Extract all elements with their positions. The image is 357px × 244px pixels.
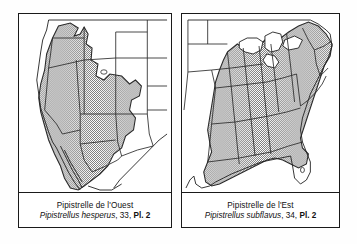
map-east xyxy=(182,14,339,192)
plate-label-west: Pl. 2 xyxy=(133,211,150,220)
map-area-west xyxy=(19,14,171,192)
common-name-east: Pipistrelle de l'Est xyxy=(227,201,293,210)
figure-sheet: Pipistrelle de l'Ouest Pipistrellus hesp… xyxy=(0,0,357,244)
range-shading-west xyxy=(39,23,142,190)
enclave-unshaded-west xyxy=(101,70,107,74)
enclave-unshaded-east xyxy=(300,167,304,172)
range-map-panel-east: Pipistrelle de l'Est Pipistrellus subfla… xyxy=(181,13,340,228)
caption-west: Pipistrelle de l'Ouest Pipistrellus hesp… xyxy=(19,193,171,228)
caption-east: Pipistrelle de l'Est Pipistrellus subfla… xyxy=(182,193,339,228)
range-map-panel-west: Pipistrelle de l'Ouest Pipistrellus hesp… xyxy=(18,13,172,228)
plate-label-east: Pl. 2 xyxy=(299,211,316,220)
entry-number-east: 34 xyxy=(286,211,295,220)
map-west xyxy=(19,14,171,192)
scientific-name-west: Pipistrellus hesperus xyxy=(40,211,116,220)
scientific-line-east: Pipistrellus subflavus, 34, Pl. 2 xyxy=(205,211,317,220)
scientific-name-east: Pipistrellus subflavus xyxy=(205,211,281,220)
entry-number-west: 33 xyxy=(120,211,129,220)
common-name-west: Pipistrelle de l'Ouest xyxy=(57,201,134,210)
scientific-line-west: Pipistrellus hesperus, 33, Pl. 2 xyxy=(40,211,151,220)
map-area-east xyxy=(182,14,339,192)
